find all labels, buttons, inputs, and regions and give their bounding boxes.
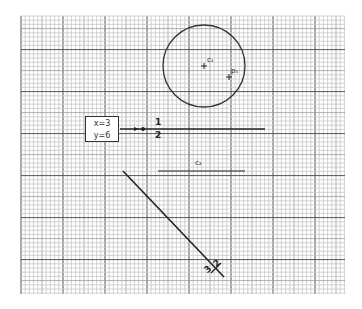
coord-x-label: x=3 bbox=[94, 119, 111, 128]
line-1-label-top: 1 bbox=[155, 118, 161, 127]
coordinate-box: x=3 y=6 bbox=[85, 116, 119, 142]
coord-y-label: y=6 bbox=[94, 131, 111, 140]
line-1-label-bottom: 2 bbox=[155, 131, 161, 140]
p1-label: p₁ bbox=[231, 68, 238, 75]
endpoint-dot-icon bbox=[141, 127, 145, 131]
c1-label: c₁ bbox=[207, 57, 214, 64]
line-diagonal bbox=[123, 171, 224, 277]
grid-canvas bbox=[0, 0, 362, 309]
c2-label: c₂ bbox=[195, 160, 202, 167]
